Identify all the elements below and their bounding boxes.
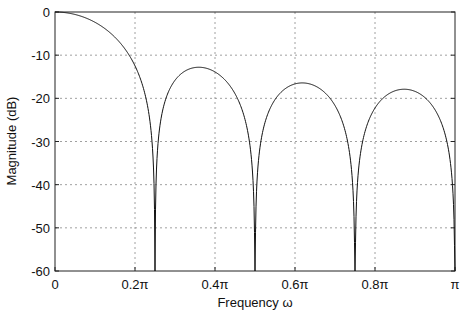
y-tick-label: -10 [31, 48, 50, 63]
x-tick-label: 0.8π [361, 277, 388, 292]
y-tick-label: -50 [31, 221, 50, 236]
y-axis-label: Magnitude (dB) [4, 97, 19, 186]
x-tick-label: 0.4π [201, 277, 228, 292]
axis-ticks: 00.2π0.4π0.6π0.8ππ0-10-20-30-40-50-60 [31, 5, 459, 292]
x-tick-label: 0.6π [281, 277, 308, 292]
x-tick-label: π [451, 277, 460, 292]
y-tick-label: -30 [31, 135, 50, 150]
grid-lines [55, 12, 455, 271]
y-tick-label: -40 [31, 178, 50, 193]
y-tick-label: 0 [43, 5, 50, 20]
y-tick-label: -60 [31, 264, 50, 279]
x-tick-label: 0 [51, 277, 58, 292]
magnitude-response-chart: 00.2π0.4π0.6π0.8ππ0-10-20-30-40-50-60 Fr… [0, 0, 462, 323]
x-tick-label: 0.2π [121, 277, 148, 292]
x-axis-label: Frequency ω [217, 295, 292, 310]
y-tick-label: -20 [31, 91, 50, 106]
